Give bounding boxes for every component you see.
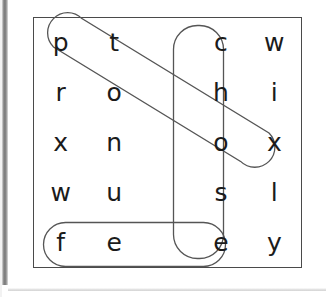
grid-cell-r4c1[interactable]: e bbox=[87, 217, 140, 267]
word-search-frame: p t c w r o h i x n o x w u s l f e e y bbox=[33, 17, 302, 268]
grid-cell-r2c0[interactable]: x bbox=[34, 118, 87, 168]
scan-edge-artifact bbox=[2, 0, 8, 285]
grid-cell-r2c1[interactable]: n bbox=[87, 118, 140, 168]
grid-cell-r2c2[interactable] bbox=[141, 118, 194, 168]
letter-grid: p t c w r o h i x n o x w u s l f e e y bbox=[34, 18, 301, 267]
grid-cell-r4c3[interactable]: e bbox=[194, 217, 247, 267]
grid-cell-r3c3[interactable]: s bbox=[194, 167, 247, 217]
grid-cell-r0c4[interactable]: w bbox=[248, 18, 301, 68]
grid-cell-r0c0[interactable]: p bbox=[34, 18, 87, 68]
grid-cell-r1c3[interactable]: h bbox=[194, 68, 247, 118]
page-canvas: p t c w r o h i x n o x w u s l f e e y bbox=[0, 0, 326, 297]
grid-cell-r1c1[interactable]: o bbox=[87, 68, 140, 118]
grid-cell-r4c4[interactable]: y bbox=[248, 217, 301, 267]
grid-cell-r3c1[interactable]: u bbox=[87, 167, 140, 217]
grid-cell-r3c2[interactable] bbox=[141, 167, 194, 217]
grid-cell-r0c1[interactable]: t bbox=[87, 18, 140, 68]
grid-cell-r3c0[interactable]: w bbox=[34, 167, 87, 217]
grid-cell-r4c2[interactable] bbox=[141, 217, 194, 267]
grid-cell-r1c4[interactable]: i bbox=[248, 68, 301, 118]
grid-cell-r0c3[interactable]: c bbox=[194, 18, 247, 68]
grid-cell-r1c0[interactable]: r bbox=[34, 68, 87, 118]
grid-cell-r0c2[interactable] bbox=[141, 18, 194, 68]
grid-cell-r1c2[interactable] bbox=[141, 68, 194, 118]
grid-cell-r2c4[interactable]: x bbox=[248, 118, 301, 168]
grid-cell-r4c0[interactable]: f bbox=[34, 217, 87, 267]
grid-cell-r3c4[interactable]: l bbox=[248, 167, 301, 217]
grid-cell-r2c3[interactable]: o bbox=[194, 118, 247, 168]
scan-bottom-rule-artifact bbox=[8, 288, 326, 291]
